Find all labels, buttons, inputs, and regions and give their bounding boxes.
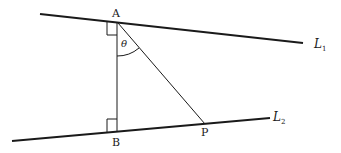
segment-ap <box>118 23 205 124</box>
line-l1 <box>40 14 303 43</box>
right-angle-marker-a <box>107 22 117 35</box>
line-l2 <box>12 118 270 141</box>
point-label-a: A <box>111 7 121 20</box>
line-label-l2: L2 <box>272 110 285 126</box>
point-label-b: B <box>112 136 120 149</box>
angle-label-theta: θ <box>121 38 127 49</box>
geometry-diagram: A B P θ L1 L2 <box>0 0 341 153</box>
point-label-p: P <box>201 126 209 139</box>
right-angle-marker-b <box>107 119 117 132</box>
line-label-l1: L1 <box>313 37 326 53</box>
angle-arc-theta <box>117 48 139 56</box>
